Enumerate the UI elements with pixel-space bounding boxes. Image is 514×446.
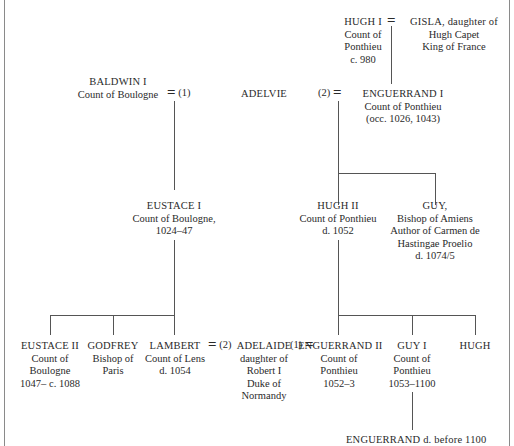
node-lambert: LAMBERT Count of Lens d. 1054 bbox=[142, 340, 208, 378]
node-hugh: HUGH bbox=[452, 340, 498, 353]
node-adelvie: ADELVIE bbox=[232, 88, 296, 101]
line-enguerrand-i-children bbox=[338, 173, 436, 174]
line-to-eustace-ii bbox=[50, 315, 51, 335]
node-enguerrand-iii: ENGUERRAND d. before 1100 bbox=[346, 434, 482, 446]
marriage-lambert-adelaide: = (2) bbox=[208, 338, 231, 352]
line-to-guy-i bbox=[412, 315, 413, 335]
line-to-hugh bbox=[475, 315, 476, 335]
frame-left-border bbox=[4, 0, 5, 446]
node-gisla: GISLA, daughter of Hugh Capet King of Fr… bbox=[398, 16, 510, 54]
node-enguerrand-ii: ENGUERRAND II Count of Ponthieu 1052–3 bbox=[298, 340, 380, 390]
line-to-godfrey bbox=[113, 315, 114, 335]
line-to-lambert bbox=[174, 315, 175, 335]
node-eustace-i: EUSTACE I Count of Boulogne, 1024–47 bbox=[122, 200, 226, 238]
node-hugh-ii: HUGH II Count of Ponthieu d. 1052 bbox=[286, 200, 390, 238]
node-godfrey: GODFREY Bishop of Paris bbox=[84, 340, 142, 378]
node-guy-i: GUY I Count of Ponthieu 1053–1100 bbox=[380, 340, 444, 390]
node-enguerrand-i: ENGUERRAND I Count of Ponthieu (occ. 102… bbox=[350, 88, 456, 126]
line-guy-i-descent bbox=[412, 392, 413, 430]
line-hugh-gisla-descent bbox=[391, 26, 392, 84]
line-eustace-i-descent bbox=[174, 240, 175, 316]
node-hugh-i: HUGH I Count of Ponthieu c. 980 bbox=[338, 16, 388, 66]
line-to-enguerrand-ii bbox=[338, 315, 339, 335]
line-baldwin-descent bbox=[174, 101, 175, 190]
marriage-baldwin-adelvie: = (1) bbox=[167, 86, 190, 100]
line-hugh-ii-children bbox=[338, 315, 476, 316]
marriage-adelvie-enguerrand: (2) = bbox=[318, 86, 341, 100]
node-eustace-ii: EUSTACE II Count of Boulogne 1047– c. 10… bbox=[14, 340, 86, 390]
node-guy-bishop: GUY, Bishop of Amiens Author of Carmen d… bbox=[382, 200, 488, 263]
line-hugh-ii-descent bbox=[338, 240, 339, 316]
node-baldwin-i: BALDWIN I Count of Boulogne bbox=[72, 76, 164, 101]
frame-right-border bbox=[509, 0, 510, 446]
line-enguerrand-i-descent bbox=[338, 101, 339, 205]
node-adelaide: ADELAIDE daughter of Robert I Duke of No… bbox=[234, 340, 294, 403]
